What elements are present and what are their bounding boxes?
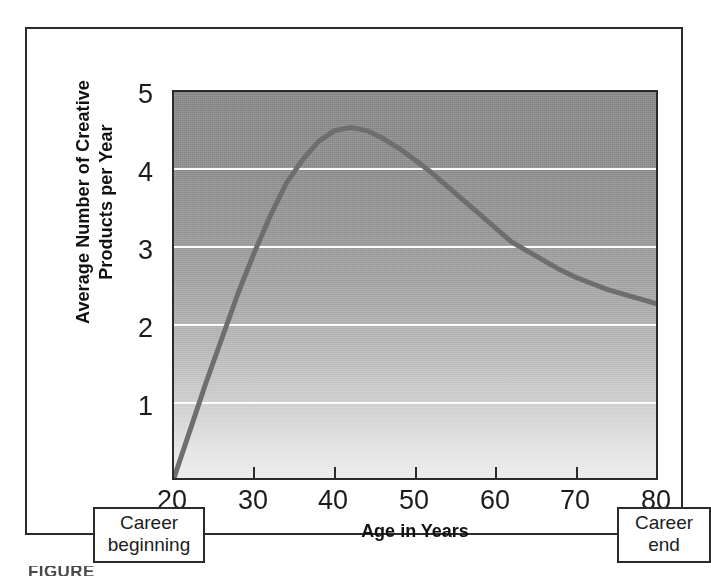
annotation-career-beginning-line2: beginning xyxy=(101,534,197,556)
y-tick-label-5: 5 xyxy=(123,81,153,108)
annotation-career-end: Career end xyxy=(617,507,711,563)
y-axis-title-line1: Average Number of Creative xyxy=(72,52,95,352)
figure-frame: 5 4 3 2 1 20 30 40 50 60 70 80 Average N… xyxy=(25,27,683,535)
y-axis-title: Average Number of Creative Products per … xyxy=(72,52,118,352)
figure-caption-clipped: FIGURE xyxy=(28,566,668,576)
y-tick-label-4: 4 xyxy=(123,159,153,186)
x-tick-label-50: 50 xyxy=(389,487,439,514)
figure-caption-text: FIGURE xyxy=(28,566,668,576)
y-axis-title-line2: Products per Year xyxy=(95,52,118,352)
plot-area xyxy=(172,90,658,480)
annotation-career-beginning: Career beginning xyxy=(93,507,205,563)
x-tick-label-60: 60 xyxy=(470,487,520,514)
y-tick-label-3: 3 xyxy=(123,237,153,264)
annotation-career-beginning-line1: Career xyxy=(101,512,197,534)
y-tick-label-2: 2 xyxy=(123,315,153,342)
x-tick-label-30: 30 xyxy=(228,487,278,514)
y-tick-label-1: 1 xyxy=(123,393,153,420)
x-tick-label-70: 70 xyxy=(550,487,600,514)
productivity-curve xyxy=(174,92,656,478)
annotation-career-end-line1: Career xyxy=(625,512,703,534)
x-tick-label-40: 40 xyxy=(308,487,358,514)
annotation-career-end-line2: end xyxy=(625,534,703,556)
x-axis-title: Age in Years xyxy=(172,521,658,542)
